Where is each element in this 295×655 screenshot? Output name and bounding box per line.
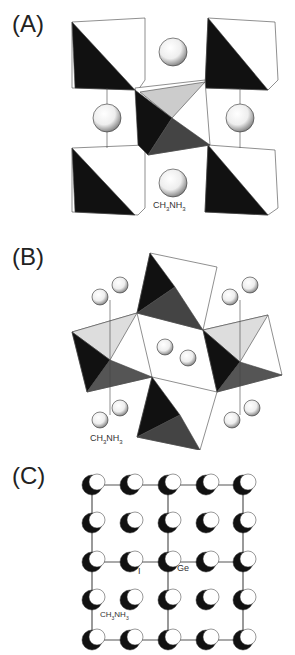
- ch3nh3-label-b: CH3NH3: [90, 433, 123, 445]
- germanium-label: Ge: [177, 563, 189, 573]
- perovskite-octahedra-b: [0, 225, 295, 450]
- panel-c: (C) I Ge CH3NH3: [0, 450, 295, 655]
- ch3nh3-label-a: CH3NH3: [153, 200, 186, 212]
- perovskite-octahedra-a: [0, 0, 295, 225]
- iodine-label: I: [138, 566, 141, 576]
- panel-b: (B) CH3NH3: [0, 225, 295, 450]
- panel-a: (A) CH3NH3: [0, 0, 295, 225]
- ch3nh3-label-c: CH3NH3: [100, 610, 129, 621]
- ball-stick-lattice-c: [0, 450, 295, 655]
